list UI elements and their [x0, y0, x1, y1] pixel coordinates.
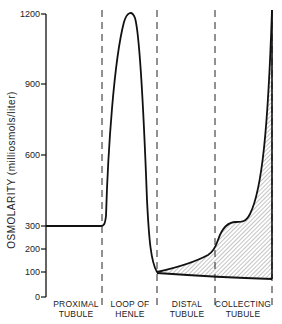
y-tick-label-0: 0 — [35, 292, 40, 302]
segment-label-distal-line2: TUBULE — [170, 309, 205, 319]
osmolarity-chart: 1200 900 600 300 200 100 0 OSMOLARITY (m… — [0, 0, 282, 324]
y-tick-label-100: 100 — [25, 267, 40, 277]
segment-label-proximal-line2: TUBULE — [59, 309, 94, 319]
segment-label-distal-line1: DISTAL — [172, 299, 202, 309]
segment-label-loop-line2: HENLE — [115, 309, 144, 319]
segment-label-proximal-line1: PROXIMAL — [53, 299, 99, 309]
y-axis-label: OSMOLARITY (milliosmols/liter) — [6, 91, 17, 249]
segment-label-collecting-line2: TUBULE — [226, 309, 261, 319]
segment-labels: PROXIMAL TUBULE LOOP OF HENLE DISTAL TUB… — [53, 299, 271, 319]
y-tick-label-300: 300 — [25, 221, 40, 231]
y-axis: 1200 900 600 300 200 100 0 — [20, 9, 46, 302]
y-tick-label-600: 600 — [25, 150, 40, 160]
y-tick-label-1200: 1200 — [20, 9, 40, 19]
y-tick-label-900: 900 — [25, 79, 40, 89]
y-tick-label-200: 200 — [25, 244, 40, 254]
segment-label-loop-line1: LOOP OF — [110, 299, 149, 309]
segment-label-collecting-line1: COLLECTING — [215, 299, 271, 309]
y-ticks — [41, 14, 46, 297]
